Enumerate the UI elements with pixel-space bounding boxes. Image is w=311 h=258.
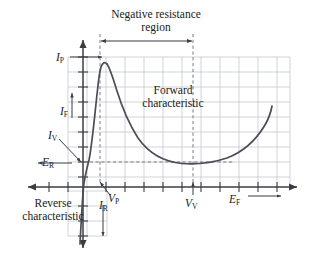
negative-resistance-region-title: Negative resistance region bbox=[95, 8, 217, 34]
forward-current-label: IF bbox=[60, 105, 68, 119]
reverse-voltage-label: ER bbox=[42, 156, 54, 170]
valley-current-subscript: V bbox=[52, 134, 57, 143]
negative-resistance-fall bbox=[107, 64, 182, 164]
peak-voltage-subscript: P bbox=[115, 197, 119, 206]
iv-pointer bbox=[59, 139, 81, 162]
reverse-voltage-subscript: R bbox=[49, 161, 54, 170]
valley-voltage-symbol: V bbox=[185, 197, 192, 209]
title-line-2: region bbox=[141, 21, 170, 33]
forward-voltage-symbol: E bbox=[229, 193, 236, 205]
reverse-current-label: IR bbox=[99, 199, 108, 213]
reverse-line-2: characteristic bbox=[22, 210, 83, 222]
peak-voltage-symbol: V bbox=[108, 192, 115, 204]
reverse-voltage-symbol: E bbox=[42, 156, 49, 168]
chart-grid-upper bbox=[68, 57, 290, 187]
valley-voltage-label: VV bbox=[185, 197, 198, 211]
reverse-line-1: Reverse bbox=[34, 197, 71, 209]
forward-line-2: characteristic bbox=[142, 97, 203, 109]
peak-voltage-label: VP bbox=[108, 192, 119, 206]
valley-current-label: IV bbox=[48, 129, 57, 143]
title-line-1: Negative resistance bbox=[111, 8, 201, 20]
valley-voltage-subscript: V bbox=[192, 202, 197, 211]
valley-and-recovery bbox=[182, 106, 272, 164]
reverse-characteristic-label: Reverse characteristic bbox=[14, 197, 92, 223]
forward-line-1: Forward bbox=[154, 84, 193, 96]
peak-current-subscript: P bbox=[60, 56, 64, 65]
peak-current-label: IP bbox=[56, 51, 64, 65]
forward-voltage-label: EF bbox=[229, 193, 240, 207]
forward-characteristic-label: Forward characteristic bbox=[130, 84, 216, 110]
forward-voltage-subscript: F bbox=[236, 198, 240, 207]
forward-current-subscript: F bbox=[64, 110, 68, 119]
